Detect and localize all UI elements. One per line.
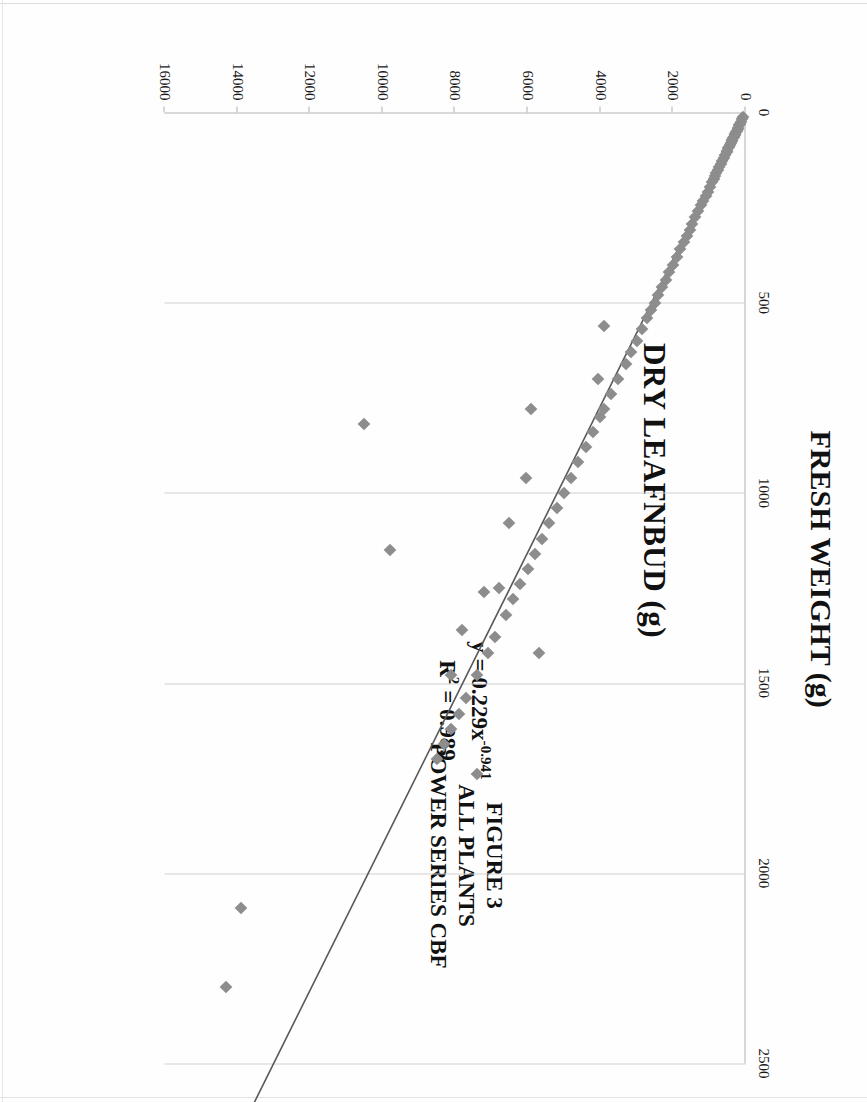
scatter-point [532,646,545,659]
scatter-point [586,425,599,438]
scatter-point [528,547,541,560]
x-axis-tick [671,106,672,112]
y-axis-tick-label: 2500 [754,1048,771,1078]
scatter-point [535,532,548,545]
scatter-point [557,486,570,499]
scatter-point [514,577,527,590]
scanned-page: DRY LEAFNBUD (g) FRESH WEIGHT (g) FIGURE… [0,0,867,1102]
x-axis-tick [599,106,600,112]
x-axis-tick [236,106,237,112]
scatter-point [452,707,465,720]
scatter-point [459,691,472,704]
scatter-point [499,608,512,621]
scatter-point [477,585,490,598]
scatter-point [604,387,617,400]
scatter-point [550,501,563,514]
scatter-point [383,543,396,556]
scatter-point [445,722,458,735]
x-axis-tick-label: 12000 [301,50,318,100]
plot-area: 05001000150020002500 0200040006000800010… [164,112,745,1063]
x-axis-tick-label: 6000 [519,50,536,100]
rotated-figure-container: DRY LEAFNBUD (g) FRESH WEIGHT (g) FIGURE… [0,0,867,1102]
scatter-point [492,581,505,594]
scatter-point [572,456,585,469]
scatter-point [630,334,643,347]
scatter-point [592,372,605,385]
x-axis-tick-label: 0 [737,50,754,100]
scatter-point [219,981,232,994]
scatter-point [579,440,592,453]
x-axis-tick-label: 4000 [591,50,608,100]
scatter-point [612,372,625,385]
x-axis-title: FRESH WEIGHT (g) [803,430,837,830]
x-axis-tick-label: 16000 [156,50,173,100]
scatter-point [357,418,370,431]
scatter-point [564,471,577,484]
scatter-point [488,631,501,644]
scatter-point [521,562,534,575]
scatter-point [234,901,247,914]
x-axis-tick [454,106,455,112]
scatter-point [506,593,519,606]
x-axis-tick [308,106,309,112]
scatter-point [635,322,648,335]
scatter-point [503,516,516,529]
scatter-point [470,669,483,682]
scatter-point [430,752,443,765]
scatter-point [437,737,450,750]
scatter-point [481,646,494,659]
y-axis-tick-label: 1000 [754,477,771,507]
scatter-point [619,357,632,370]
x-axis-tick-label: 8000 [446,50,463,100]
scatter-point [524,402,537,415]
x-axis-tick [163,106,164,112]
y-axis-tick-label: 1500 [754,668,771,698]
x-axis-tick-label: 10000 [373,50,390,100]
y-axis-tick-label: 2000 [754,858,771,888]
x-axis-tick-label: 14000 [228,50,245,100]
scatter-point [445,669,458,682]
scatter-point [455,623,468,636]
scatter-point [597,319,610,332]
y-axis-tick-label: 0 [754,108,771,116]
y-axis-tick-label: 500 [754,291,771,314]
scatter-markers-layer [164,112,745,1063]
x-axis-tick [526,106,527,112]
scatter-point [543,516,556,529]
x-axis-tick [381,106,382,112]
scatter-point [470,768,483,781]
scatter-point [519,471,532,484]
scatter-point [624,345,637,358]
x-axis-tick-label: 2000 [664,50,681,100]
